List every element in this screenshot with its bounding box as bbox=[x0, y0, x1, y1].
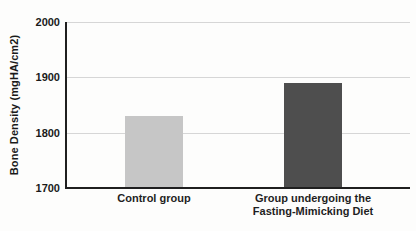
y-tick-label-2000: 2000 bbox=[20, 16, 60, 28]
gridline-1900 bbox=[66, 77, 410, 78]
y-tick-label-1700: 1700 bbox=[20, 182, 60, 194]
bar-control-group bbox=[125, 116, 183, 187]
y-axis-line bbox=[65, 22, 67, 188]
y-tick-label-1900: 1900 bbox=[20, 71, 60, 83]
x-category-label-control-group: Control group bbox=[64, 192, 244, 205]
bar-group-undergoing-the-fasting-mimicking-diet bbox=[284, 83, 342, 187]
gridline-1800 bbox=[66, 133, 410, 134]
gridline-2000 bbox=[66, 22, 410, 23]
y-tick-label-1800: 1800 bbox=[20, 127, 60, 139]
y-axis-title: Bone Density (mgHA/cm2) bbox=[8, 35, 20, 175]
x-category-label-group-undergoing-the-fasting-mimicking-diet: Group undergoing theFasting-Mimicking Di… bbox=[223, 192, 403, 218]
x-axis-line bbox=[65, 187, 410, 189]
bar-chart: Bone Density (mgHA/cm2) 1700180019002000… bbox=[0, 0, 416, 231]
